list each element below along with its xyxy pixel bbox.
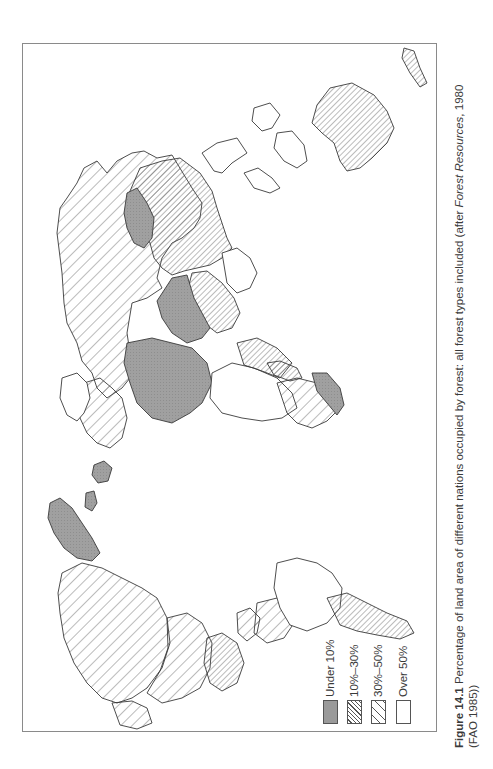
caption-line-2: (FAO 1985))	[466, 85, 480, 748]
region-southeast-asia	[222, 248, 257, 293]
region-indonesia	[274, 131, 307, 168]
legend-swatch-over-50	[396, 700, 411, 724]
caption-source-title: Forest Resources	[453, 117, 465, 208]
region-sumatra	[244, 168, 280, 193]
world-forest-map	[22, 43, 437, 732]
legend-swatch-10-30	[347, 700, 362, 724]
region-iceland	[85, 491, 97, 511]
caption-text-post: , 1980	[453, 85, 465, 117]
legend-swatch-30-50	[371, 700, 386, 724]
legend-label-10-30: 10%–30%	[348, 645, 360, 697]
region-australia	[312, 83, 394, 171]
figure-caption: Figure 14.1 Percentage of land area of d…	[452, 85, 480, 748]
legend-label-30-50: 30%–50%	[372, 645, 384, 697]
region-new-zealand	[402, 48, 427, 87]
region-alaska	[112, 701, 152, 729]
figure-number: Figure 14.1	[453, 687, 465, 748]
caption-line-1: Figure 14.1 Percentage of land area of d…	[452, 85, 466, 748]
region-borneo	[252, 103, 280, 131]
legend-label-over-50: Over 50%	[397, 646, 409, 697]
legend-swatch-under-10	[323, 700, 338, 724]
region-argentina	[327, 593, 414, 639]
region-mexico	[204, 633, 244, 691]
region-japan	[202, 138, 247, 173]
region-british-isles	[92, 461, 112, 483]
region-north-africa	[124, 338, 212, 423]
caption-text-pre: Percentage of land area of different nat…	[453, 207, 465, 684]
legend-label-under-10: Under 10%	[324, 639, 336, 697]
